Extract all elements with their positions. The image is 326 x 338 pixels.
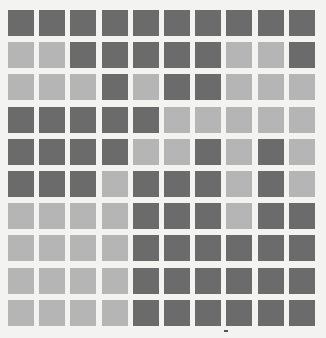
grid-cell-light [39, 268, 65, 294]
grid-cell-light [289, 139, 315, 165]
grid-cell-light [226, 74, 252, 100]
grid-cell-dark [133, 10, 159, 36]
grid-cell-dark [195, 74, 221, 100]
grid-cell-dark [195, 10, 221, 36]
grid-cell-dark [195, 139, 221, 165]
grid-cell-dark [258, 171, 284, 197]
grid-cell-dark [195, 171, 221, 197]
grid-cell-dark [226, 10, 252, 36]
grid-cell-dark [133, 42, 159, 68]
grid-cell-dark [39, 107, 65, 133]
square-grid [8, 10, 319, 332]
grid-cell-light [102, 300, 128, 326]
grid-cell-light [289, 107, 315, 133]
grid-cell-light [8, 42, 34, 68]
grid-cell-dark [258, 139, 284, 165]
grid-cell-dark [70, 42, 96, 68]
grid-cell-light [39, 42, 65, 68]
grid-cell-light [102, 268, 128, 294]
grid-cell-dark [102, 10, 128, 36]
grid-cell-light [226, 107, 252, 133]
grid-cell-dark [164, 42, 190, 68]
grid-cell-light [102, 235, 128, 261]
grid-cell-dark [8, 10, 34, 36]
grid-cell-light [133, 74, 159, 100]
grid-cell-light [8, 203, 34, 229]
grid-cell-light [289, 171, 315, 197]
grid-cell-dark [289, 300, 315, 326]
grid-cell-dark [258, 300, 284, 326]
grid-cell-light [226, 139, 252, 165]
grid-cell-light [258, 74, 284, 100]
grid-cell-dark [195, 203, 221, 229]
grid-cell-dark [133, 235, 159, 261]
grid-cell-light [39, 203, 65, 229]
grid-cell-dark [289, 10, 315, 36]
grid-cell-dark [102, 139, 128, 165]
grid-cell-dark [133, 107, 159, 133]
grid-cell-light [164, 139, 190, 165]
grid-cell-light [70, 268, 96, 294]
grid-cell-light [8, 268, 34, 294]
grid-cell-light [70, 235, 96, 261]
grid-cell-dark [289, 268, 315, 294]
grid-cell-dark [133, 171, 159, 197]
grid-cell-dark [164, 74, 190, 100]
grid-cell-light [102, 171, 128, 197]
grid-cell-dark [70, 10, 96, 36]
grid-cell-dark [164, 203, 190, 229]
grid-cell-light [39, 235, 65, 261]
grid-cell-light [39, 300, 65, 326]
grid-cell-dark [164, 268, 190, 294]
grid-cell-dark [39, 139, 65, 165]
grid-cell-dark [164, 10, 190, 36]
grid-cell-light [226, 203, 252, 229]
grid-cell-dark [133, 203, 159, 229]
grid-cell-dark [70, 139, 96, 165]
grid-cell-dark [8, 107, 34, 133]
grid-cell-dark [195, 42, 221, 68]
grid-cell-light [258, 42, 284, 68]
grid-cell-dark [258, 10, 284, 36]
grid-cell-light [8, 235, 34, 261]
grid-cell-dark [258, 203, 284, 229]
grid-cell-light [289, 74, 315, 100]
grid-cell-light [164, 107, 190, 133]
grid-cell-dark [289, 235, 315, 261]
grid-cell-dark [226, 235, 252, 261]
grid-cell-dark [39, 10, 65, 36]
grid-cell-dark [102, 107, 128, 133]
grid-cell-light [8, 74, 34, 100]
grid-cell-dark [226, 300, 252, 326]
grid-cell-dark [133, 268, 159, 294]
grid-cell-dark [164, 235, 190, 261]
grid-cell-dark [164, 300, 190, 326]
grid-cell-dark [226, 268, 252, 294]
cursor-artifact [224, 330, 228, 332]
grid-cell-light [258, 107, 284, 133]
grid-cell-light [70, 203, 96, 229]
grid-cell-dark [70, 171, 96, 197]
grid-cell-dark [289, 42, 315, 68]
grid-cell-dark [195, 235, 221, 261]
grid-cell-dark [164, 171, 190, 197]
grid-cell-dark [8, 171, 34, 197]
grid-cell-light [226, 42, 252, 68]
grid-cell-dark [289, 203, 315, 229]
grid-cell-dark [195, 268, 221, 294]
grid-cell-dark [195, 300, 221, 326]
grid-cell-dark [102, 42, 128, 68]
grid-cell-dark [133, 300, 159, 326]
grid-cell-dark [70, 107, 96, 133]
grid-cell-light [195, 107, 221, 133]
grid-cell-dark [258, 235, 284, 261]
grid-cell-light [70, 74, 96, 100]
grid-cell-dark [39, 171, 65, 197]
grid-cell-light [39, 74, 65, 100]
grid-cell-light [70, 300, 96, 326]
grid-cell-light [133, 139, 159, 165]
grid-cell-dark [102, 74, 128, 100]
grid-cell-light [8, 300, 34, 326]
grid-cell-light [102, 203, 128, 229]
grid-cell-light [226, 171, 252, 197]
